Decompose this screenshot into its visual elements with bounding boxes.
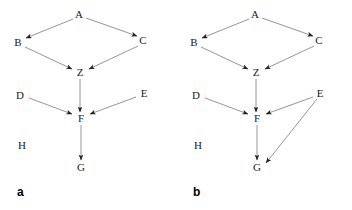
edge-C-to-Z [89,46,138,69]
node-Z: Z [253,67,260,78]
node-C: C [139,35,146,46]
edge-A-to-C [86,18,137,36]
node-B: B [190,37,197,48]
node-H: H [194,140,202,151]
edge-C-to-Z [265,46,314,69]
node-E: E [317,88,324,99]
edge-D-to-F [205,98,248,114]
node-D: D [192,90,200,101]
node-B: B [14,37,21,48]
node-F: F [254,113,260,124]
node-G: G [253,162,261,173]
dag-figure: ABCZDEFHG a ABCZDEFHG b [0,0,352,210]
panel-b-edges [176,0,352,210]
edge-B-to-Z [201,47,248,69]
edge-A-to-B [26,19,73,38]
node-A: A [75,9,83,20]
panel-a: ABCZDEFHG a [0,0,176,210]
edge-E-to-F [266,97,313,114]
edge-B-to-Z [25,47,72,69]
node-G: G [77,162,85,173]
node-C: C [315,35,322,46]
node-F: F [78,113,84,124]
node-H: H [18,140,26,151]
panel-b: ABCZDEFHG b [176,0,352,210]
edge-E-to-F [90,97,136,114]
node-D: D [16,90,24,101]
panel-a-caption: a [17,186,24,198]
edge-A-to-B [202,19,249,38]
node-Z: Z [77,67,84,78]
edge-E-to-G [266,99,317,163]
panel-a-edges [0,0,176,210]
panel-b-caption: b [193,186,200,198]
node-A: A [251,9,259,20]
node-E: E [141,88,148,99]
edge-A-to-C [262,18,313,36]
edge-D-to-F [29,98,72,114]
